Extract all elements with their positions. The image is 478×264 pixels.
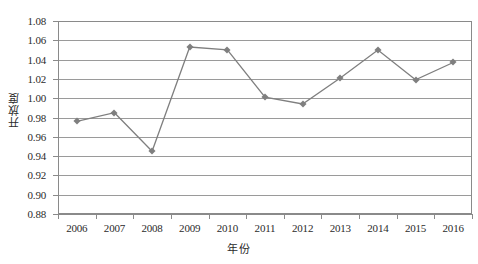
x-tick-mark [359, 214, 360, 219]
y-tick-label: 0.92 [2, 170, 46, 181]
x-tick-label: 2016 [430, 222, 476, 234]
gridline [59, 137, 471, 138]
x-tick-mark [434, 214, 435, 219]
y-tick-label: 1.04 [2, 55, 46, 66]
y-tick-label: 0.96 [2, 132, 46, 143]
y-axis-line [58, 21, 59, 214]
y-axis-title: 开放度 [6, 92, 22, 128]
y-tick-label: 0.94 [2, 151, 46, 162]
gridline [59, 195, 471, 196]
x-tick-mark [133, 214, 134, 219]
x-axis-line [58, 214, 472, 215]
y-tick-label: 1.06 [2, 35, 46, 46]
x-axis-title: 年份 [0, 240, 478, 256]
x-tick-mark [321, 214, 322, 219]
x-tick-mark [96, 214, 97, 219]
x-tick-mark [284, 214, 285, 219]
x-tick-mark [397, 214, 398, 219]
line-chart: 1.081.061.041.021.000.980.960.940.920.90… [0, 0, 478, 264]
y-tick-label: 1.08 [2, 16, 46, 27]
gridline [59, 118, 471, 119]
y-tick-label: 0.88 [2, 209, 46, 220]
x-tick-mark [58, 214, 59, 219]
gridline [59, 156, 471, 157]
x-tick-mark [209, 214, 210, 219]
y-tick-label: 0.90 [2, 190, 46, 201]
x-tick-mark [472, 214, 473, 219]
gridline [59, 60, 471, 61]
gridline [59, 79, 471, 80]
gridline [59, 175, 471, 176]
x-tick-mark [246, 214, 247, 219]
plot-area [58, 21, 472, 214]
x-tick-mark [171, 214, 172, 219]
gridline [59, 40, 471, 41]
y-tick-label: 1.02 [2, 74, 46, 85]
